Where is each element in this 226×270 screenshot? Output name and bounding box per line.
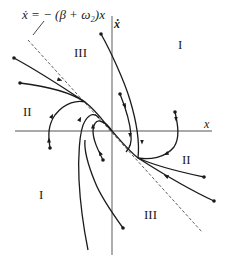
trajectory-lower-right <box>138 158 214 201</box>
trajectory-start-dot <box>173 110 177 114</box>
region-label-I-top: I <box>178 38 182 51</box>
trajectory-right-loop <box>138 112 178 159</box>
trajectory-start-dot <box>18 81 22 85</box>
trajectory-start-dot <box>99 32 103 36</box>
trajectory-left-inner-1 <box>79 115 99 250</box>
trajectory-bottom <box>85 140 123 228</box>
region-label-I-bottom: I <box>39 188 43 201</box>
x-axis-label: x <box>204 118 209 130</box>
trajectory-start-dot <box>121 226 125 230</box>
trajectory-start-dot <box>48 146 52 150</box>
region-label-III-top: III <box>74 46 87 59</box>
direction-arrow-icon <box>57 79 60 80</box>
trajectory-left-inner-2 <box>93 121 112 160</box>
trajectory-start-dot <box>212 199 216 203</box>
equation-pointer <box>33 21 44 35</box>
phase-portrait-diagram <box>0 0 226 270</box>
direction-arrow-icon <box>51 116 52 118</box>
region-label-III-bottom: III <box>144 208 157 221</box>
region-label-II-right: II <box>182 153 191 166</box>
asymptote-equation-label: ẋ = − (β + ω₂)x <box>22 8 105 21</box>
region-label-II-left: II <box>23 105 32 118</box>
trajectory-inner-right <box>120 94 131 152</box>
trajectory-start-dot <box>12 56 16 60</box>
trajectory-start-dot <box>202 175 206 179</box>
trajectory-start-dot <box>101 158 105 162</box>
direction-arrow-icon <box>79 119 80 121</box>
y-axis-label: ẋ <box>114 18 120 30</box>
asymptote-dashed-line <box>28 40 202 232</box>
trajectory-start-dot <box>118 92 122 96</box>
